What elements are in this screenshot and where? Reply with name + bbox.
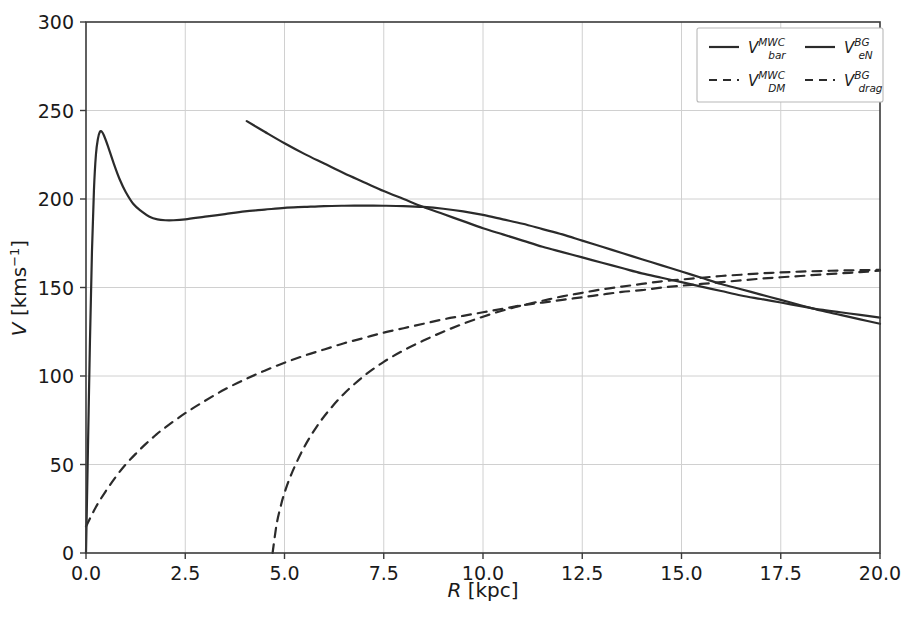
x-tick-label: 0.0 — [71, 562, 101, 584]
x-tick-label: 7.5 — [369, 562, 399, 584]
chart-legend: VMWCbarVBGeNVMWCDMVBGdrag — [697, 28, 883, 102]
y-tick-label: 150 — [38, 277, 74, 299]
y-tick-label: 0 — [62, 542, 74, 564]
y-tick-label: 200 — [38, 188, 74, 210]
x-tick-label: 17.5 — [760, 562, 802, 584]
y-tick-label: 250 — [38, 100, 74, 122]
x-tick-label: 15.0 — [660, 562, 702, 584]
x-tick-label: 20.0 — [859, 562, 901, 584]
chart-figure: 0.02.55.07.510.012.515.017.520.0 0501001… — [0, 0, 911, 622]
x-tick-label: 5.0 — [269, 562, 299, 584]
y-tick-label: 300 — [38, 11, 74, 33]
rotation-curve-chart: 0.02.55.07.510.012.515.017.520.0 0501001… — [0, 0, 911, 622]
x-tick-label: 12.5 — [561, 562, 603, 584]
x-axis-title: R [kpc] — [447, 578, 518, 602]
y-tick-label: 50 — [50, 454, 74, 476]
x-tick-label: 2.5 — [170, 562, 200, 584]
y-tick-label: 100 — [38, 365, 74, 387]
